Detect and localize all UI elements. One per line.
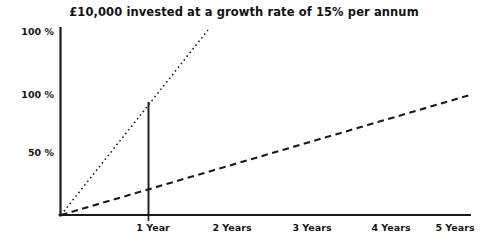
growth-chart: £10,000 invested at a growth rate of 15%…	[0, 0, 488, 243]
steep-growth-line	[61, 30, 208, 215]
plot-area	[0, 0, 488, 243]
shallow-growth-line	[61, 95, 470, 215]
